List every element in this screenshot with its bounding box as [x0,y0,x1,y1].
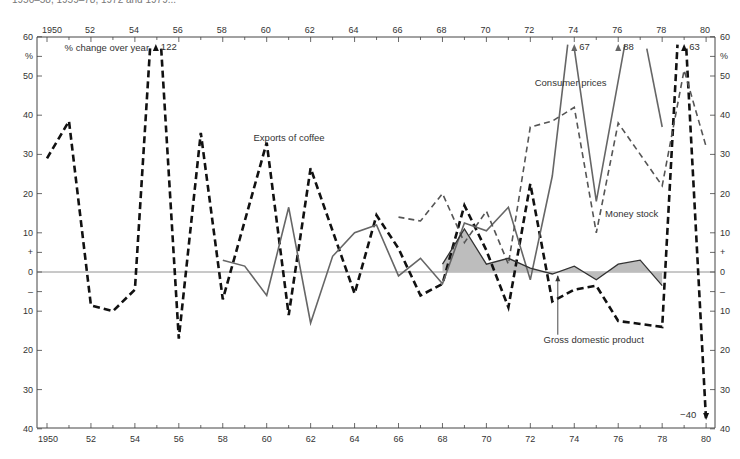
off-scale-arrow-icon [571,44,577,51]
right-y-tick-label: 50 [720,71,730,81]
gdp-shaded-area [443,229,663,286]
top-x-tick-label: 78 [656,25,666,35]
series-annotation: Money stock [605,208,659,219]
off-scale-arrow-icon [681,44,687,51]
bottom-x-tick-label: 78 [657,434,667,444]
series-annotation: Exports of coffee [254,132,325,143]
exports-of-coffee-line [686,49,706,421]
axis-ticks: 1950525456586062646668707274767880195052… [23,25,730,444]
off-scale-arrow-icon [615,44,621,51]
off-scale-value-label: 63 [689,41,700,52]
top-x-tick-label: 56 [173,25,183,35]
top-x-tick-label: 62 [305,25,315,35]
left-y-tick-label: + [28,247,33,257]
top-x-tick-label: 76 [612,25,622,35]
series-annotation: % change over year [65,42,149,53]
gross-domestic-product-area [443,229,663,286]
bottom-x-tick-label: 54 [130,434,140,444]
bottom-x-tick-label: 76 [613,434,623,444]
left-y-tick-label: 0 [28,267,33,277]
bottom-x-tick-label: 72 [525,434,535,444]
consumer-prices-line [574,45,625,202]
top-x-tick-label: 68 [436,25,446,35]
left-y-tick-label: 50 [23,71,33,81]
bottom-x-tick-label: 74 [569,434,579,444]
right-y-tick-label: 0 [720,267,725,277]
left-y-tick-label: – [28,287,33,297]
left-y-tick-label: 30 [23,149,33,159]
plot-frame [37,37,715,428]
off-scale-value-label: 88 [623,41,634,52]
right-y-tick-label: 10 [720,228,730,238]
consumer-prices-line [223,45,568,323]
off-scale-value-label: 67 [579,41,590,52]
bottom-x-tick-label: 56 [174,434,184,444]
consumer-prices-line [647,49,662,127]
off-scale-value-label: −40 [680,409,696,420]
series-lines: 12263−406788 [47,41,709,421]
top-x-tick-label: 80 [700,25,710,35]
right-y-tick-label: 60 [720,32,730,42]
bottom-x-tick-label: 70 [481,434,491,444]
right-y-tick-label: 10 [720,306,730,316]
off-scale-arrow-icon [153,44,159,51]
chart-annotations: % change over yearExports of coffeeConsu… [65,42,659,345]
exports-of-coffee-line [47,45,150,312]
exports-of-coffee-line [161,45,677,339]
bottom-x-tick-label: 64 [350,434,360,444]
right-y-tick-label: 30 [720,385,730,395]
top-x-tick-label: 66 [393,25,403,35]
bottom-x-tick-label: 52 [86,434,96,444]
left-y-tick-label: 40 [23,110,33,120]
right-y-tick-label: + [720,247,725,257]
top-x-tick-label: 70 [480,25,490,35]
right-y-tick-label: 40 [720,110,730,120]
top-x-tick-label: 74 [568,25,578,35]
top-x-tick-label: 52 [85,25,95,35]
bottom-x-tick-label: 58 [218,434,228,444]
right-y-tick-label: – [720,287,725,297]
left-y-tick-label: 10 [23,228,33,238]
series-annotation: Consumer prices [535,77,607,88]
bottom-x-tick-label: 66 [394,434,404,444]
left-y-tick-label: 30 [23,385,33,395]
gdp-pointer-arrow-icon [555,275,560,281]
top-x-tick-label: 60 [261,25,271,35]
bottom-x-tick-label: 62 [306,434,316,444]
right-y-tick-label: % [720,51,728,61]
top-x-tick-label: 54 [129,25,139,35]
bottom-x-tick-label: 1950 [38,434,58,444]
off-scale-arrow-icon [703,413,709,420]
left-y-tick-label: 20 [23,345,33,355]
bottom-x-tick-label: 60 [262,434,272,444]
bottom-x-tick-label: 68 [437,434,447,444]
left-y-tick-label: 20 [23,189,33,199]
left-y-tick-label: 60 [23,32,33,42]
right-y-tick-label: 20 [720,189,730,199]
right-y-tick-label: 20 [720,345,730,355]
top-x-tick-label: 58 [217,25,227,35]
off-scale-value-label: 122 [161,41,177,52]
top-x-tick-label: 1950 [42,25,62,35]
right-y-tick-label: 40 [720,424,730,434]
left-y-tick-label: 40 [23,424,33,434]
top-x-tick-label: 72 [524,25,534,35]
bottom-x-tick-label: 80 [701,434,711,444]
top-x-tick-label: 64 [349,25,359,35]
line-chart: 1950525456586062646668707274767880195052… [0,0,740,459]
series-annotation: Gross domestic product [544,334,645,345]
left-y-tick-label: 10 [23,306,33,316]
money-stock-line [399,70,707,264]
left-y-tick-label: % [25,51,33,61]
right-y-tick-label: 30 [720,149,730,159]
